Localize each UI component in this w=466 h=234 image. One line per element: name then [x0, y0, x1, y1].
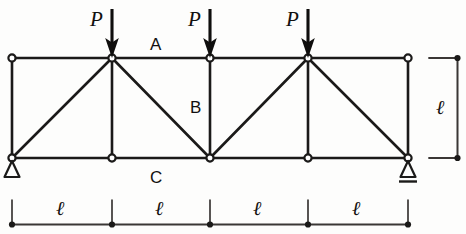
height-label: ℓ	[436, 97, 444, 117]
span-label-1: ℓ	[56, 198, 64, 218]
truss-diagram-figure: P P P A B C ℓ ℓ ℓ ℓ ℓ	[0, 0, 466, 234]
joint-top-0	[8, 54, 15, 61]
load-arrow-3	[301, 9, 315, 58]
span-label-3: ℓ	[253, 198, 261, 218]
vdim-dot-bottom	[454, 155, 460, 161]
member-diagonal-1	[12, 58, 112, 158]
load-arrow-2	[203, 9, 217, 58]
load-arrow-1	[105, 9, 119, 58]
joint-bottom-3	[304, 154, 311, 161]
truss-drawing	[0, 0, 466, 234]
member-diagonal-4	[308, 58, 408, 158]
member-diagonal-3	[210, 58, 308, 158]
dim-dot-0	[9, 221, 15, 227]
load-label-1: P	[90, 9, 103, 30]
vdim-dot-top	[454, 55, 460, 61]
dim-dot-3	[305, 221, 311, 227]
truss-members	[12, 58, 408, 158]
joint-top-4	[404, 54, 411, 61]
member-label-a: A	[150, 36, 161, 53]
joint-bottom-1	[108, 154, 115, 161]
horizontal-dimension	[12, 200, 408, 225]
member-label-c: C	[150, 169, 162, 186]
pin-support-triangle	[5, 161, 20, 177]
roller-support-right	[399, 161, 417, 182]
load-label-2: P	[188, 9, 201, 30]
load-arrows	[105, 9, 315, 58]
joint-bottom-2	[206, 154, 213, 161]
member-label-b: B	[190, 99, 201, 116]
span-label-2: ℓ	[155, 198, 163, 218]
span-label-4: ℓ	[352, 198, 360, 218]
roller-support-triangle	[401, 161, 416, 177]
pin-support-left	[5, 161, 20, 177]
load-label-3: P	[286, 9, 299, 30]
dim-dot-1	[109, 221, 115, 227]
dim-dot-2	[207, 221, 213, 227]
dim-dot-4	[405, 221, 411, 227]
